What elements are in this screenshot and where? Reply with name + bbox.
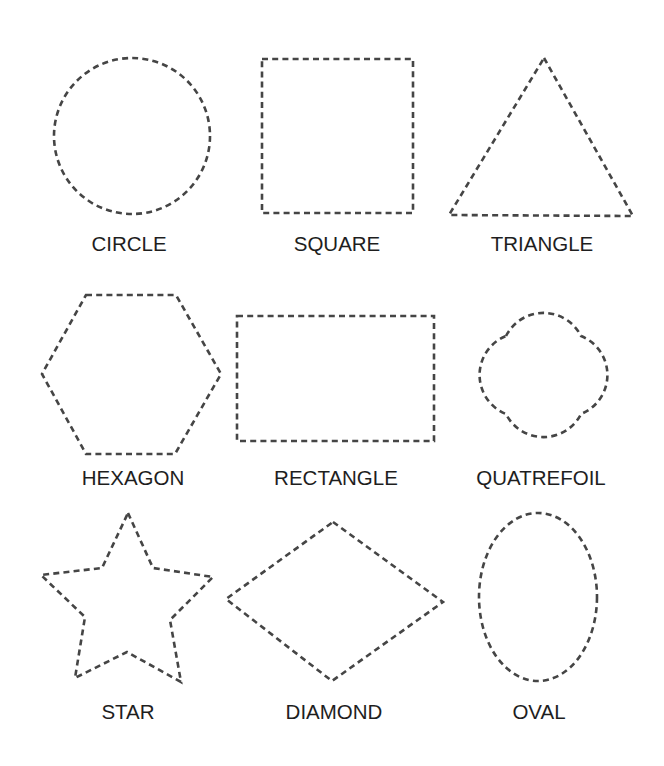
- oval-label: OVAL: [512, 702, 565, 723]
- star-label: STAR: [101, 702, 154, 723]
- quatrefoil-label: QUATREFOIL: [476, 468, 605, 489]
- square-label: SQUARE: [294, 234, 381, 255]
- shapes-worksheet: CIRCLE SQUARE TRIANGLE HEXAGON RECTANGLE…: [0, 0, 664, 766]
- rectangle-shape: [237, 316, 434, 441]
- triangle-shape: [449, 58, 633, 216]
- quatrefoil-shape: [480, 313, 608, 437]
- hexagon-label: HEXAGON: [82, 468, 185, 489]
- oval-shape: [479, 513, 597, 681]
- star-shape: [41, 513, 213, 682]
- rectangle-label: RECTANGLE: [274, 468, 398, 489]
- diamond-shape: [226, 522, 443, 681]
- square-shape: [262, 59, 413, 213]
- diamond-label: DIAMOND: [286, 702, 383, 723]
- hexagon-shape: [42, 295, 221, 454]
- circle-label: CIRCLE: [91, 234, 166, 255]
- shapes-canvas: [0, 0, 664, 766]
- circle-shape: [54, 58, 210, 214]
- triangle-label: TRIANGLE: [491, 234, 594, 255]
